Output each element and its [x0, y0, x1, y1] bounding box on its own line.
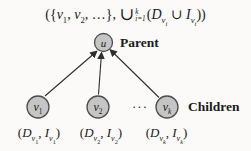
edge-vk-to-parent [111, 50, 160, 98]
tree-diagram-figure: ({v1, v2, …}, ∪ki=1(Dvi ∪ Ivi)) u v1 v2 … [0, 0, 251, 151]
parent-node-label: u [101, 38, 107, 49]
edge-v1-to-parent [45, 52, 97, 97]
children-role-label: Children [188, 100, 240, 114]
child-node-label-vk: vk [163, 100, 172, 115]
child-node-label-v2: v2 [93, 100, 102, 115]
child-node-label-v1: v1 [33, 100, 42, 115]
ellipsis-dots: ··· [132, 100, 148, 113]
tuple-label-v2: (Dv2, Iv2) [80, 123, 122, 151]
tuple-label-v1: (Dv1, Iv1) [18, 123, 60, 151]
tuple-label-vk: (Dvk, Ivk) [146, 123, 188, 151]
parent-role-label: Parent [120, 36, 159, 50]
edge-v2-to-parent [99, 53, 102, 95]
